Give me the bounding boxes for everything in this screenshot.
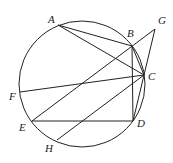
geometry-diagram: A B C D E F G H — [0, 0, 173, 163]
label-G: G — [158, 14, 166, 26]
segment-AB — [58, 25, 132, 46]
label-A: A — [47, 13, 55, 25]
label-C: C — [148, 70, 156, 82]
label-H: H — [44, 142, 54, 154]
label-E: E — [18, 121, 26, 133]
segment-BC — [132, 46, 144, 75]
label-F: F — [8, 90, 16, 102]
label-D: D — [136, 117, 145, 129]
label-B: B — [127, 27, 134, 39]
